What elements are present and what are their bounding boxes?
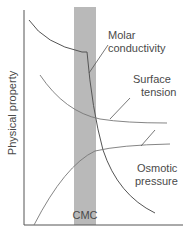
osmotic-label-2: pressure <box>135 175 178 187</box>
osmotic-label-1: Osmotic <box>137 162 178 174</box>
cmc-band <box>74 7 96 225</box>
chart: Molar conductivity Surface tension Osmot… <box>0 0 192 235</box>
cmc-label: CMC <box>72 209 97 221</box>
molar-label-2: conductivity <box>108 42 166 54</box>
surface-label-2: tension <box>141 86 176 98</box>
surface-label-1: Surface <box>133 73 171 85</box>
y-axis-label: Physical property <box>6 70 18 155</box>
surface-leader <box>110 98 130 119</box>
molar-label-1: Molar <box>108 29 136 41</box>
osmotic-leader <box>141 130 155 146</box>
